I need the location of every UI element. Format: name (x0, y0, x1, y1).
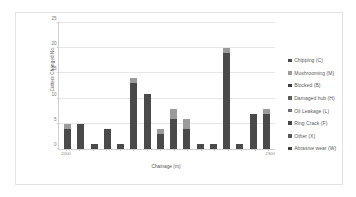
bar-column[interactable] (74, 23, 87, 149)
bar-column[interactable] (61, 23, 74, 149)
legend-item[interactable]: Ring Crack (F) (288, 117, 356, 130)
legend-item[interactable]: Chipping (C) (288, 54, 356, 67)
bar-stack (64, 124, 71, 149)
bar-stack (157, 129, 164, 149)
legend-item[interactable]: Oil Leakage (L) (288, 104, 356, 117)
bar-stack (130, 78, 137, 149)
bar-stack (91, 144, 98, 149)
y-tick-label: 0 (54, 142, 57, 147)
bar-column[interactable] (101, 23, 114, 149)
chart-legend: Chipping (C)Mushrooming (M)Blocked (B)Da… (288, 54, 356, 155)
x-tick-mark (120, 149, 121, 151)
legend-item[interactable]: Blocked (B) (288, 79, 356, 92)
bar-column[interactable] (154, 23, 167, 149)
bar-stack (236, 144, 243, 149)
bar-column[interactable] (88, 23, 101, 149)
x-tick-label-right: 2300 (265, 151, 275, 156)
bar-segment[interactable] (170, 109, 177, 119)
bar-series-group (59, 23, 275, 149)
bar-segment[interactable] (263, 114, 270, 149)
legend-item-label: Abrasive wear (W) (294, 145, 336, 151)
bar-column[interactable] (114, 23, 127, 149)
bar-segment[interactable] (144, 94, 151, 149)
bar-column[interactable] (180, 23, 193, 149)
x-tick-label-left: 2000 (61, 151, 71, 156)
bar-segment[interactable] (104, 129, 111, 149)
bar-column[interactable] (247, 23, 260, 149)
bar-segment[interactable] (157, 134, 164, 149)
legend-item-label: Damaged hub (H) (294, 95, 335, 101)
x-tick-mark (160, 149, 161, 151)
legend-swatch-icon (288, 96, 292, 100)
bar-stack (250, 114, 257, 149)
legend-item-label: Chipping (C) (294, 57, 323, 63)
legend-swatch-icon (288, 109, 292, 113)
bar-column[interactable] (194, 23, 207, 149)
legend-swatch-icon (288, 121, 292, 125)
bar-segment[interactable] (183, 129, 190, 149)
chart-container: Cutters Changed No. 0510152025 2000 2300… (15, 12, 343, 185)
legend-item-label: Mushrooming (M) (294, 70, 334, 76)
x-tick-mark (187, 149, 188, 151)
y-tick-label: 10 (51, 91, 56, 96)
legend-item[interactable]: Damaged hub (H) (288, 92, 356, 105)
x-tick-mark (174, 149, 175, 151)
bar-stack (183, 119, 190, 149)
bar-segment[interactable] (130, 83, 137, 149)
plot-area-wrapper: Cutters Changed No. 0510152025 2000 2300… (36, 19, 279, 161)
bar-stack (263, 109, 270, 149)
bar-column[interactable] (207, 23, 220, 149)
x-tick-mark (201, 149, 202, 151)
bar-column[interactable] (233, 23, 246, 149)
bar-segment[interactable] (183, 119, 190, 129)
bar-column[interactable] (167, 23, 180, 149)
x-tick-mark (241, 149, 242, 151)
x-axis-title: Chainage (m) (58, 164, 274, 169)
y-axis-title: Cutters Changed No. (30, 0, 40, 19)
bar-stack (170, 109, 177, 149)
x-tick-mark (147, 149, 148, 151)
bar-segment[interactable] (91, 144, 98, 149)
x-tick-mark (214, 149, 215, 151)
x-tick-mark (106, 149, 107, 151)
bar-column[interactable] (220, 23, 233, 149)
bar-column[interactable] (260, 23, 273, 149)
x-tick-mark (79, 149, 80, 151)
x-tick-mark (228, 149, 229, 151)
legend-item-label: Ring Crack (F) (294, 120, 327, 126)
legend-item[interactable]: Other (X) (288, 130, 356, 143)
bar-segment[interactable] (64, 129, 71, 149)
legend-item-label: Oil Leakage (L) (294, 108, 329, 114)
y-tick-label: 15 (51, 66, 56, 71)
legend-swatch-icon (288, 134, 292, 138)
bar-segment[interactable] (170, 119, 177, 149)
bar-segment[interactable] (250, 114, 257, 149)
legend-swatch-icon (288, 84, 292, 88)
bar-stack (104, 129, 111, 149)
legend-item-label: Blocked (B) (294, 82, 320, 88)
bar-stack (77, 124, 84, 149)
bar-stack (223, 48, 230, 149)
legend-swatch-icon (288, 59, 292, 63)
y-tick-label: 25 (51, 16, 56, 21)
bar-column[interactable] (127, 23, 140, 149)
y-tick-label: 5 (54, 116, 57, 121)
bar-segment[interactable] (77, 124, 84, 149)
legend-item[interactable]: Mushrooming (M) (288, 67, 356, 80)
legend-swatch-icon (288, 71, 292, 75)
bar-column[interactable] (141, 23, 154, 149)
x-tick-mark (133, 149, 134, 151)
bar-segment[interactable] (236, 144, 243, 149)
y-tick-label: 20 (51, 41, 56, 46)
legend-swatch-icon (288, 147, 292, 151)
legend-item[interactable]: Abrasive wear (W) (288, 142, 356, 155)
legend-item-label: Other (X) (294, 133, 315, 139)
x-tick-mark (93, 149, 94, 151)
bar-segment[interactable] (223, 53, 230, 149)
x-tick-mark (255, 149, 256, 151)
plot-area: 0510152025 2000 2300 (58, 23, 275, 150)
bar-stack (144, 94, 151, 149)
